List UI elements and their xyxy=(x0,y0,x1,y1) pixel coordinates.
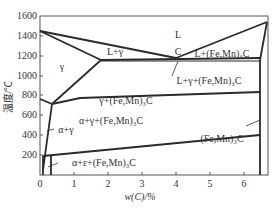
leader-alpha-epsilon xyxy=(48,163,58,167)
label-point-C: C xyxy=(175,46,182,57)
a3-line xyxy=(40,99,52,104)
cementite-liquidus xyxy=(260,22,267,60)
leader-cementite xyxy=(246,120,260,126)
phase-diagram: 200 400 600 800 1000 1200 1400 1600 0 1 … xyxy=(0,0,279,208)
x-tick-2: 2 xyxy=(106,178,111,189)
x-tick-6: 6 xyxy=(242,178,247,189)
x-tick-4: 4 xyxy=(174,178,179,189)
label-L-gamma: L+γ xyxy=(107,46,124,57)
eutectoid-line xyxy=(52,92,260,104)
y-tick-400: 400 xyxy=(22,129,37,140)
x-tick-5: 5 xyxy=(208,178,213,189)
y-tick-1200: 1200 xyxy=(17,50,37,61)
label-L-gamma-cementite: L+γ+(Fe,Mn)₃C xyxy=(176,75,241,87)
y-tick-200: 200 xyxy=(22,149,37,160)
label-gamma: γ xyxy=(59,61,65,72)
y-tick-1000: 1000 xyxy=(17,70,37,81)
y-tick-800: 800 xyxy=(22,89,37,100)
x-tick-3: 3 xyxy=(140,178,145,189)
label-gamma-cementite: γ+(Fe,Mn)₃C xyxy=(98,95,153,107)
label-L-cementite: L+(Fe,Mn)₃C xyxy=(195,48,250,60)
x-tick-1: 1 xyxy=(72,178,77,189)
label-alpha-epsilon-cementite: α+ε+(Fe,Mn)₃C xyxy=(72,157,136,169)
label-alpha-gamma: α+γ xyxy=(58,124,74,135)
x-axis-title: w(C)/% xyxy=(124,191,155,203)
phase-boundaries xyxy=(40,22,267,175)
y-tick-1600: 1600 xyxy=(17,10,37,21)
y-tick-600: 600 xyxy=(22,109,37,120)
y-tick-1400: 1400 xyxy=(17,30,37,41)
label-alpha-gamma-cementite: α+γ+(Fe,Mn)₃C xyxy=(79,115,143,127)
x-tick-0: 0 xyxy=(38,178,43,189)
y-axis-title: 温度/℃ xyxy=(2,81,14,114)
label-cementite: (Fe,Mn)₃C xyxy=(200,133,244,145)
leader-L-gamma-cementite xyxy=(172,61,178,76)
label-L: L xyxy=(175,29,181,40)
solidus xyxy=(40,31,101,60)
